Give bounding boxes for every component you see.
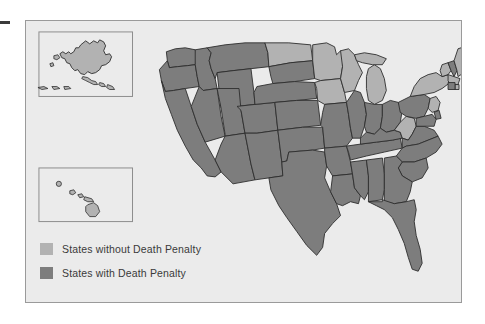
legend-label-with-death-penalty: States with Death Penalty: [62, 267, 186, 279]
legend: States without Death Penalty States with…: [40, 239, 280, 287]
legend-item-without-death-penalty: States without Death Penalty: [40, 239, 280, 258]
edge-tick-mark: [0, 21, 10, 24]
state-florida: [368, 200, 422, 271]
legend-swatch-with-death-penalty: [40, 267, 53, 279]
state-minnesota: [313, 43, 345, 81]
legend-swatch-without-death-penalty: [40, 243, 53, 255]
map-panel: States without Death Penalty States with…: [25, 20, 462, 303]
state-alabama: [366, 158, 384, 202]
legend-label-without-death-penalty: States without Death Penalty: [62, 243, 201, 255]
state-rhode-island: [455, 85, 459, 90]
figure-stage: States without Death Penalty States with…: [0, 0, 485, 324]
state-connecticut: [448, 83, 455, 90]
legend-item-with-death-penalty: States with Death Penalty: [40, 263, 280, 282]
state-pennsylvania: [398, 94, 430, 118]
state-michigan: [366, 65, 386, 105]
state-michigan-upper-peninsula: [354, 53, 386, 65]
state-new-jersey: [428, 96, 440, 112]
state-kansas: [275, 100, 321, 130]
hawaii-inset-box: [39, 168, 133, 222]
